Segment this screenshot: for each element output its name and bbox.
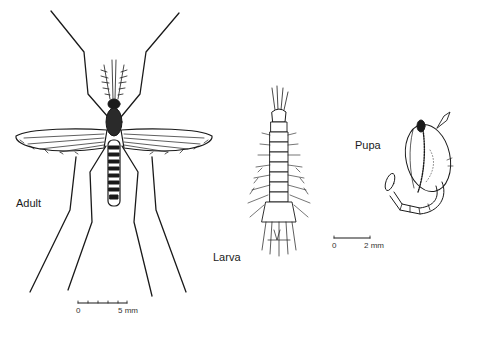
illustration-canvas — [0, 0, 477, 338]
larva-drawing — [248, 86, 310, 256]
larva-pupa-scale-end: 2 mm — [364, 241, 384, 250]
adult-scale-bar — [78, 301, 127, 303]
larva-pupa-scale-start: 0 — [332, 241, 336, 250]
pupa-drawing — [383, 112, 456, 214]
adult-label: Adult — [16, 197, 41, 209]
mosquito-life-stages-figure: Adult Larva Pupa 0 5 mm 0 2 mm — [0, 0, 477, 338]
adult-scale-end: 5 mm — [118, 306, 138, 315]
adult-mosquito-drawing — [16, 11, 212, 296]
adult-scale-start: 0 — [76, 306, 80, 315]
pupa-label: Pupa — [355, 139, 381, 151]
larva-pupa-scale-bar — [334, 236, 370, 238]
larva-label: Larva — [213, 251, 241, 263]
